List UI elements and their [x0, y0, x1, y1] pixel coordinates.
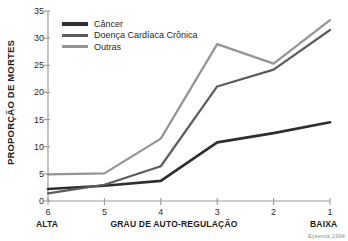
x-tick-label: 3 — [215, 207, 220, 217]
legend-label: Câncer — [94, 19, 123, 29]
x-axis-left-caption: ALTA — [36, 219, 58, 229]
x-tick-label: 5 — [102, 207, 107, 217]
legend-color-swatch — [62, 22, 88, 26]
series-line — [48, 30, 330, 193]
y-tick-label: 35 — [22, 6, 44, 16]
y-tick-label: 10 — [22, 142, 44, 152]
x-tick-label: 2 — [271, 207, 276, 217]
x-tick-label: 6 — [45, 207, 50, 217]
y-tick-label: 0 — [22, 196, 44, 206]
y-tick-label: 5 — [22, 169, 44, 179]
y-tick-label: 25 — [22, 60, 44, 70]
legend-label: Outras — [94, 42, 121, 52]
line-chart: PROPORÇÃO DE MORTES 05101520253035 65432… — [0, 0, 348, 241]
source-citation: Eysenck,1994 — [308, 233, 345, 239]
legend-color-swatch — [62, 34, 88, 37]
legend-label: Doença Cardíaca Crônica — [94, 30, 198, 40]
legend-item[interactable]: Outras — [62, 41, 198, 53]
legend: CâncerDoença Cardíaca CrônicaOutras — [62, 18, 198, 53]
legend-item[interactable]: Câncer — [62, 18, 198, 30]
y-axis-ticks — [44, 11, 50, 201]
legend-item[interactable]: Doença Cardíaca Crônica — [62, 30, 198, 42]
y-tick-label: 20 — [22, 87, 44, 97]
series-line — [48, 122, 330, 189]
x-axis-title: GRAU DE AUTO-REGULAÇÃO — [110, 219, 237, 229]
x-axis-right-caption: BAIXA — [310, 219, 337, 229]
x-tick-label: 4 — [158, 207, 163, 217]
x-tick-label: 1 — [327, 207, 332, 217]
legend-color-swatch — [62, 45, 88, 48]
y-tick-label: 30 — [22, 33, 44, 43]
y-tick-label: 15 — [22, 115, 44, 125]
